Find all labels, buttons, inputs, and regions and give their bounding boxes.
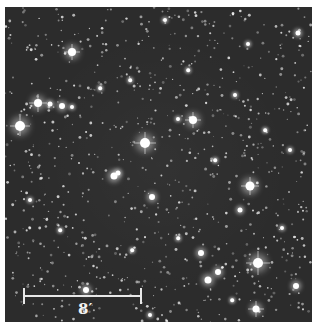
- star: [28, 198, 32, 202]
- star: [215, 269, 221, 275]
- star: [280, 226, 284, 230]
- star: [116, 171, 121, 176]
- star: [296, 31, 301, 36]
- star: [59, 103, 65, 109]
- star: [198, 250, 204, 256]
- star-field-image: [5, 7, 312, 322]
- diffraction-spike: [193, 112, 194, 128]
- star: [48, 102, 53, 107]
- star: [128, 78, 132, 82]
- diffraction-spike: [20, 116, 21, 136]
- star: [58, 228, 62, 232]
- star: [70, 105, 74, 109]
- star: [163, 18, 167, 22]
- scale-bar-line: [24, 295, 141, 297]
- star: [205, 277, 212, 284]
- star: [230, 298, 234, 302]
- diffraction-spike: [145, 132, 146, 154]
- star: [148, 313, 152, 317]
- star: [176, 117, 180, 121]
- star: [246, 42, 250, 46]
- diffraction-spike: [250, 177, 251, 195]
- diffraction-spike: [256, 301, 257, 317]
- faint-stars-layer: [5, 7, 312, 322]
- diffraction-spike: [72, 44, 73, 60]
- star: [98, 86, 102, 90]
- scale-bar-right-tick: [140, 288, 142, 304]
- star: [83, 287, 89, 293]
- star: [233, 93, 237, 97]
- star: [130, 248, 134, 252]
- diffraction-spike: [38, 94, 39, 112]
- star: [238, 208, 243, 213]
- star: [149, 194, 155, 200]
- star: [213, 158, 217, 162]
- star: [176, 236, 180, 240]
- scale-bar-left-tick: [23, 288, 25, 304]
- diffraction-spike: [258, 251, 259, 275]
- star: [288, 148, 292, 152]
- star: [186, 68, 190, 72]
- scale-bar-label: 8′: [78, 302, 92, 317]
- star: [263, 128, 267, 132]
- star: [293, 283, 299, 289]
